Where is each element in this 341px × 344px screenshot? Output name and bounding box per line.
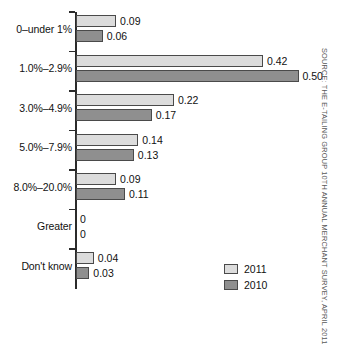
category-label: 1.0%–2.9% — [0, 62, 72, 74]
bar-value-label: 0.17 — [156, 109, 176, 121]
bar-2010-2 — [76, 109, 152, 121]
category-label: 5.0%–7.9% — [0, 141, 72, 153]
bar-value-label: 0 — [80, 213, 86, 225]
axis-tick — [69, 248, 75, 250]
bar-value-label: 0.11 — [129, 188, 149, 200]
category-label: Don't know — [0, 260, 72, 272]
legend-swatch-icon — [224, 280, 238, 290]
bar-value-label: 0 — [80, 228, 86, 240]
bar-value-label: 0.14 — [142, 134, 162, 146]
bar-value-label: 0.03 — [93, 267, 113, 279]
bar-2011-3 — [76, 134, 138, 146]
bar-2010-3 — [76, 149, 134, 161]
bar-2011-4 — [76, 173, 116, 185]
axis-tick — [69, 90, 75, 92]
axis-tick — [69, 130, 75, 132]
legend-label: 2010 — [244, 280, 267, 291]
bar-value-label: 0.09 — [120, 173, 140, 185]
bar-2011-1 — [76, 55, 263, 67]
bar-value-label: 0.42 — [267, 55, 287, 67]
category-label: 3.0%–4.9% — [0, 102, 72, 114]
bar-value-label: 0.04 — [98, 252, 118, 264]
bar-2011-2 — [76, 94, 174, 106]
bar-2011-0 — [76, 15, 116, 27]
legend-item-2010: 2010 — [224, 278, 267, 292]
bar-2010-6 — [76, 267, 89, 279]
category-label: Greater — [0, 220, 72, 232]
bar-value-label: 0.06 — [107, 30, 127, 42]
legend-item-2011: 2011 — [224, 262, 267, 276]
category-label: 8.0%–20.0% — [0, 181, 72, 193]
axis-tick — [69, 51, 75, 53]
axis-tick — [69, 169, 75, 171]
bar-value-label: 0.22 — [178, 94, 198, 106]
bar-2010-0 — [76, 30, 103, 42]
bar-value-label: 0.09 — [120, 15, 140, 27]
chart-legend: 20112010 — [224, 262, 267, 294]
axis-tick — [69, 209, 75, 211]
bar-2010-1 — [76, 70, 299, 82]
category-label: 0–under 1% — [0, 23, 72, 35]
bar-value-label: 0.13 — [138, 149, 158, 161]
legend-label: 2011 — [244, 264, 267, 275]
source-note: Source: The e-tailing group 10th Annual … — [320, 48, 328, 344]
bar-2010-4 — [76, 188, 125, 200]
legend-swatch-icon — [224, 264, 238, 274]
bar-2011-6 — [76, 252, 94, 264]
axis-tick — [69, 11, 75, 13]
